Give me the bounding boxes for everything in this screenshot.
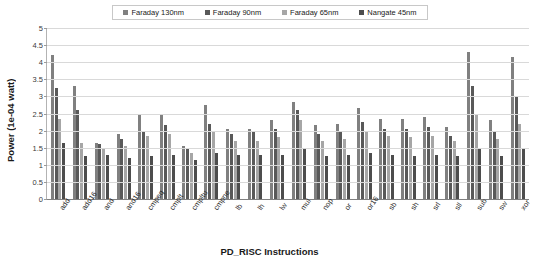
bar: [449, 136, 452, 199]
bar: [281, 155, 284, 199]
legend-swatch-icon: [205, 10, 210, 15]
x-axis-tick-cell: xor: [507, 201, 529, 245]
bar: [325, 156, 328, 199]
legend-label: Faraday 130nm: [131, 9, 184, 17]
bar: [299, 120, 302, 199]
y-axis-tick-label: 0.5: [33, 177, 43, 186]
x-axis-tick-label: lb: [233, 202, 244, 212]
bar: [76, 110, 79, 199]
bar: [296, 110, 299, 199]
x-axis-tick-cell: srl: [419, 201, 441, 245]
x-axis-tick-cell: cmplt: [156, 201, 178, 245]
bar: [234, 141, 237, 199]
bar: [292, 102, 295, 199]
y-axis-tick-label: 3.5: [33, 75, 43, 84]
legend-item-faraday-90nm: Faraday 90nm: [205, 9, 261, 17]
bar: [95, 143, 98, 199]
y-axis-tick-mark: [44, 79, 47, 80]
y-axis-tick-label: 3: [39, 92, 43, 101]
bar: [204, 105, 207, 199]
y-axis-tick-label: 2: [39, 126, 43, 135]
y-axis-tick-mark: [44, 131, 47, 132]
y-axis-tick-mark: [44, 45, 47, 46]
x-axis-tick-label: lh: [255, 202, 266, 212]
bar: [172, 155, 175, 199]
y-axis-tick-label: 4: [39, 58, 43, 67]
x-axis-tick-cell: sb: [375, 201, 397, 245]
y-axis-tick-mark: [44, 199, 47, 200]
bar: [98, 144, 101, 199]
gridline: [47, 62, 529, 63]
bar: [445, 127, 448, 199]
gridline: [47, 165, 529, 166]
bar: [182, 146, 185, 199]
legend-swatch-icon: [123, 10, 128, 15]
x-axis-tick-cell: lb: [222, 201, 244, 245]
x-axis-tick-cell: lw: [266, 201, 288, 245]
bar: [453, 141, 456, 199]
x-axis-tick-cell: sh: [397, 201, 419, 245]
bar: [190, 153, 193, 199]
x-axis-tick-cell: sub: [463, 201, 485, 245]
y-axis-tick-label: 1.5: [33, 143, 43, 152]
x-axis-tick-cell: sll: [441, 201, 463, 245]
bar: [427, 127, 430, 199]
bar: [277, 137, 280, 199]
x-axis-tick-cell: cmpltu: [178, 201, 200, 245]
bar: [62, 143, 65, 199]
bar: [51, 55, 54, 199]
bar: [106, 155, 109, 199]
y-axis-tick-mark: [44, 148, 47, 149]
bar: [522, 148, 525, 199]
bar: [409, 137, 412, 199]
plot-area: 00.511.522.533.544.55: [46, 28, 529, 200]
legend-label: Nangate 45nm: [367, 9, 416, 17]
bar: [423, 117, 426, 199]
y-axis-tick-mark: [44, 96, 47, 97]
gridline: [47, 79, 529, 80]
y-axis-tick-label: 1: [39, 160, 43, 169]
x-axis-tick-cell: nop: [309, 201, 331, 245]
bar: [237, 155, 240, 199]
x-axis-tick-cell: or16: [353, 201, 375, 245]
gridline: [47, 96, 529, 97]
x-axis-tick-labels: addadd16andand16cmpeqcmpltcmpltucmpnelbl…: [46, 201, 529, 245]
bar: [500, 156, 503, 199]
x-axis-tick-cell: and: [90, 201, 112, 245]
bar: [317, 134, 320, 199]
y-axis-tick-mark: [44, 165, 47, 166]
gridline: [47, 182, 529, 183]
y-axis-tick-label: 0: [39, 195, 43, 204]
bar: [150, 156, 153, 199]
x-axis-tick-cell: and16: [112, 201, 134, 245]
bar: [124, 146, 127, 199]
bar: [259, 155, 262, 199]
bar: [256, 141, 259, 199]
bar: [456, 156, 459, 199]
x-axis-tick-cell: lh: [244, 201, 266, 245]
y-axis-tick-mark: [44, 28, 47, 29]
gridline: [47, 28, 529, 29]
bar: [303, 148, 306, 199]
bar: [357, 108, 360, 199]
chart-legend: Faraday 130nm Faraday 90nm Faraday 65nm …: [112, 5, 428, 20]
plot-wrap: 00.511.522.533.544.55: [46, 28, 529, 200]
bar: [117, 134, 120, 199]
y-axis-tick-mark: [44, 62, 47, 63]
legend-label: Faraday 90nm: [213, 9, 261, 17]
x-axis-tick-label: xor: [518, 198, 531, 212]
y-axis-tick-label: 4.5: [33, 41, 43, 50]
bar: [230, 134, 233, 199]
bar: [489, 120, 492, 199]
bar: [518, 124, 521, 199]
x-axis-tick-cell: mul: [287, 201, 309, 245]
y-axis-tick-mark: [44, 182, 47, 183]
bar: [435, 155, 438, 199]
bar: [138, 115, 141, 199]
y-axis-title: Power (1e-04 watt): [2, 50, 18, 190]
x-axis-tick-cell: sw: [485, 201, 507, 245]
bar: [146, 136, 149, 199]
bar: [475, 114, 478, 200]
bar: [80, 143, 83, 199]
bar: [431, 136, 434, 199]
